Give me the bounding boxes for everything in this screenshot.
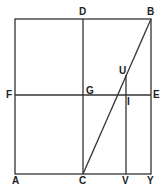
label-E: E	[153, 90, 160, 100]
geometric-diagram	[0, 0, 167, 193]
label-G: G	[86, 86, 94, 96]
label-D: D	[79, 7, 86, 17]
label-I: I	[127, 97, 130, 107]
label-B: B	[147, 7, 154, 17]
label-F: F	[6, 90, 12, 100]
segment-CB	[83, 19, 151, 174]
label-C: C	[79, 176, 86, 186]
label-U: U	[119, 66, 126, 76]
label-Y: Y	[147, 176, 154, 186]
label-A: A	[12, 176, 19, 186]
label-V: V	[122, 176, 129, 186]
